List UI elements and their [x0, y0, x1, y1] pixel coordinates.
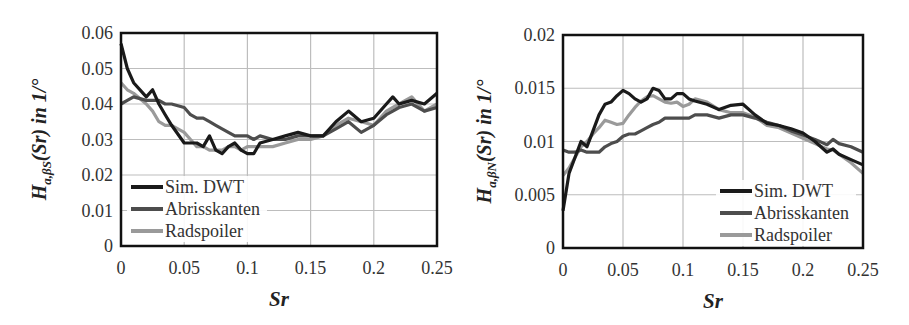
y-tick-label: 0.05 — [82, 59, 114, 79]
legend-label: Abrisskanten — [165, 199, 260, 219]
y-tick-label: 0.02 — [524, 25, 556, 45]
x-axis-label: Sr — [269, 287, 290, 311]
x-tick-label: 0.15 — [295, 258, 327, 278]
y-tick-label: 0.06 — [82, 23, 114, 43]
legend: Sim. DWTAbrisskantenRadspoiler — [716, 180, 856, 246]
x-tick-label: 0.25 — [421, 258, 453, 278]
y-tick-label: 0 — [104, 236, 113, 256]
y-tick-label: 0.01 — [524, 132, 556, 152]
chart-left-svg: 00.010.020.030.040.050.0600.050.10.150.2… — [0, 0, 455, 325]
x-tick-label: 0.15 — [727, 260, 759, 280]
x-tick-label: 0.1 — [672, 260, 695, 280]
x-axis-label: Sr — [703, 289, 724, 313]
legend-label: Abrisskanten — [754, 203, 849, 223]
y-tick-label: 0.03 — [82, 130, 114, 150]
x-tick-label: 0.05 — [607, 260, 639, 280]
x-tick-label: 0 — [117, 258, 126, 278]
y-axis-label: Ha,βS(Sr) in 1/° — [28, 79, 54, 202]
x-tick-label: 0.1 — [236, 258, 259, 278]
y-tick-label: 0.02 — [82, 165, 114, 185]
y-tick-label: 0.005 — [515, 185, 556, 205]
chart-right-h-beta-n: 00.0050.010.0150.0200.050.10.150.20.25Si… — [455, 0, 909, 325]
chart-right-svg: 00.0050.010.0150.0200.050.10.150.20.25Si… — [455, 0, 909, 325]
legend-label: Sim. DWT — [754, 181, 833, 201]
x-tick-label: 0 — [559, 260, 568, 280]
y-tick-label: 0 — [546, 238, 555, 258]
y-tick-label: 0.015 — [515, 78, 556, 98]
legend-label: Radspoiler — [754, 225, 832, 245]
y-tick-label: 0.01 — [82, 201, 114, 221]
x-tick-label: 0.25 — [847, 260, 879, 280]
x-tick-label: 0.2 — [363, 258, 386, 278]
legend: Sim. DWTAbrisskantenRadspoiler — [127, 176, 267, 242]
legend-label: Sim. DWT — [165, 177, 244, 197]
legend-label: Radspoiler — [165, 221, 243, 241]
x-tick-label: 0.2 — [792, 260, 815, 280]
y-tick-label: 0.04 — [82, 94, 114, 114]
x-tick-label: 0.05 — [168, 258, 200, 278]
chart-left-h-beta-s: 00.010.020.030.040.050.0600.050.10.150.2… — [0, 0, 455, 325]
y-axis-label: Ha,βN(Sr) in 1/° — [473, 80, 499, 205]
